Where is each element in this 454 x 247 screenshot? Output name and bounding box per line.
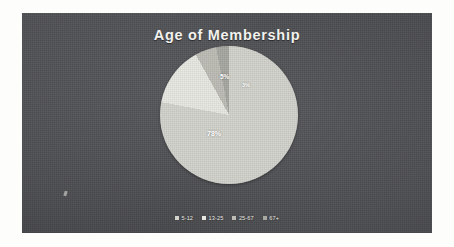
legend-item-5-12[interactable]: 5-12: [175, 215, 193, 221]
legend-item-25-67[interactable]: 25-67: [232, 215, 253, 221]
legend-item-label: 13-25: [209, 215, 224, 221]
pie-slice-label-main: 78%: [207, 130, 221, 137]
pie-disc[interactable]: [160, 46, 298, 184]
legend-item-label: 67+: [269, 215, 279, 221]
pie-chart[interactable]: 78% 5% 3%: [160, 46, 298, 184]
legend-item-67+[interactable]: 67+: [263, 215, 279, 221]
legend-swatch-icon: [175, 216, 179, 220]
chart-title: Age of Membership: [22, 27, 432, 43]
chart-legend: 5-1213-2525-6767+: [22, 215, 432, 221]
pie-slice-label-small-b: 3%: [242, 82, 250, 88]
legend-swatch-icon: [263, 216, 267, 220]
legend-swatch-icon: [232, 216, 236, 220]
legend-item-13-25[interactable]: 13-25: [202, 215, 223, 221]
pie-slice-label-small-a: 5%: [220, 73, 229, 80]
slide-page: Age of Membership 78% 5% 3% 5-1213-2525-…: [0, 0, 454, 247]
chart-panel: Age of Membership 78% 5% 3% 5-1213-2525-…: [22, 13, 432, 233]
legend-swatch-icon: [202, 216, 206, 220]
legend-item-label: 5-12: [181, 215, 193, 221]
legend-item-label: 25-67: [239, 215, 254, 221]
image-artifact-speck: [63, 191, 67, 197]
